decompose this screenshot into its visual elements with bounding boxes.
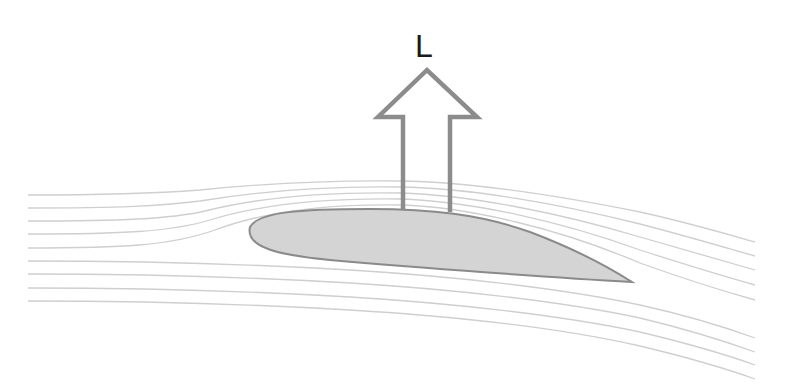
streamline-lower-3: [28, 288, 755, 365]
airfoil-diagram: [0, 0, 785, 391]
streamline-lower-4: [28, 301, 755, 379]
